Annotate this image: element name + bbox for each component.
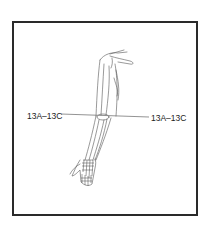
forearm-outer	[85, 116, 96, 160]
humerus-left	[101, 64, 104, 115]
clavicle	[110, 50, 124, 54]
upper-arm-inner	[115, 64, 117, 116]
upper-arm-outer	[96, 60, 100, 116]
section-label-left: 13A–13C	[27, 111, 62, 121]
shoulder-outline	[100, 52, 133, 68]
carpal-bones	[82, 160, 94, 178]
finger-bones	[81, 174, 92, 186]
forearm-line	[95, 119, 107, 160]
humerus-right	[106, 66, 109, 115]
section-line	[61, 114, 149, 117]
section-label-right: 13A–13C	[151, 113, 186, 123]
